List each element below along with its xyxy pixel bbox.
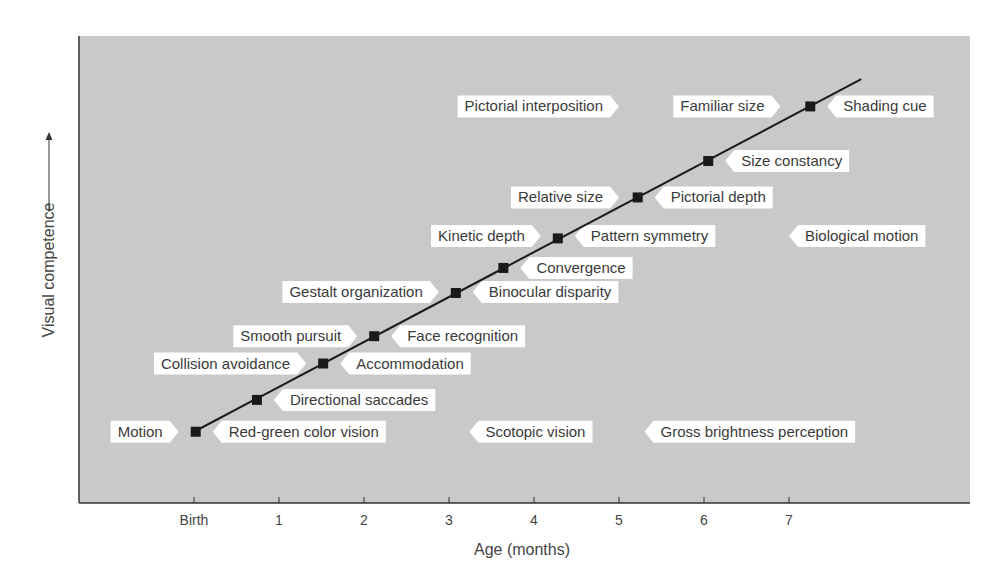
x-tick-label: 5 bbox=[615, 512, 623, 528]
label-text: Smooth pursuit bbox=[240, 327, 342, 344]
x-tick-label: Birth bbox=[180, 512, 209, 528]
annotation-label: Familiar size bbox=[673, 95, 780, 117]
annotation-label: Binocular disparity bbox=[473, 281, 619, 303]
annotation-label: Motion bbox=[111, 421, 179, 443]
arrow-up-icon bbox=[46, 132, 53, 140]
data-point-marker bbox=[369, 331, 379, 341]
x-tick-label: 7 bbox=[785, 512, 793, 528]
annotation-label: Collision avoidance bbox=[154, 353, 306, 375]
label-text: Motion bbox=[118, 423, 163, 440]
annotation-label: Red-green color vision bbox=[213, 421, 386, 443]
annotation-label: Scotopic vision bbox=[469, 421, 592, 443]
data-point-marker bbox=[703, 156, 713, 166]
annotation-label: Biological motion bbox=[789, 225, 925, 247]
data-point-marker bbox=[318, 359, 328, 369]
data-point-marker bbox=[805, 101, 815, 111]
annotation-label: Size constancy bbox=[725, 150, 849, 172]
label-text: Gestalt organization bbox=[289, 283, 422, 300]
label-text: Collision avoidance bbox=[161, 355, 290, 372]
label-text: Pattern symmetry bbox=[591, 227, 709, 244]
data-point-marker bbox=[553, 233, 563, 243]
label-text: Relative size bbox=[518, 188, 603, 205]
label-text: Binocular disparity bbox=[489, 283, 612, 300]
label-text: Face recognition bbox=[407, 327, 518, 344]
annotation-label: Convergence bbox=[520, 257, 632, 279]
label-text: Convergence bbox=[536, 259, 625, 276]
x-tick-label: 3 bbox=[445, 512, 453, 528]
annotation-label: Kinetic depth bbox=[431, 225, 541, 247]
label-text: Pictorial depth bbox=[671, 188, 766, 205]
x-tick-label: 1 bbox=[275, 512, 283, 528]
label-text: Accommodation bbox=[356, 355, 464, 372]
annotation-label: Gestalt organization bbox=[282, 281, 438, 303]
label-text: Directional saccades bbox=[290, 391, 428, 408]
x-tick-label: 6 bbox=[700, 512, 708, 528]
annotation-label: Gross brightness perception bbox=[645, 421, 856, 443]
label-text: Red-green color vision bbox=[229, 423, 379, 440]
annotation-label: Shading cue bbox=[827, 95, 933, 117]
annotation-label: Accommodation bbox=[340, 353, 471, 375]
label-text: Shading cue bbox=[843, 97, 926, 114]
y-axis-title: Visual competence bbox=[40, 202, 57, 337]
label-text: Scotopic vision bbox=[485, 423, 585, 440]
chart: Pictorial interpositionFamiliar sizeShad… bbox=[0, 0, 998, 582]
y-axis-title-group: Visual competence bbox=[40, 132, 57, 337]
label-text: Pictorial interposition bbox=[465, 97, 603, 114]
data-point-marker bbox=[498, 263, 508, 273]
label-text: Biological motion bbox=[805, 227, 918, 244]
data-point-marker bbox=[252, 395, 262, 405]
label-text: Gross brightness perception bbox=[661, 423, 849, 440]
annotation-label: Pictorial depth bbox=[655, 186, 773, 208]
x-tick-label: 4 bbox=[530, 512, 538, 528]
label-text: Kinetic depth bbox=[438, 227, 525, 244]
label-text: Familiar size bbox=[680, 97, 764, 114]
x-axis-title: Age (months) bbox=[474, 541, 570, 558]
data-point-marker bbox=[191, 427, 201, 437]
data-point-marker bbox=[633, 192, 643, 202]
annotation-label: Smooth pursuit bbox=[233, 325, 357, 347]
x-tick-label: 2 bbox=[360, 512, 368, 528]
annotation-label: Pictorial interposition bbox=[458, 95, 619, 117]
annotation-label: Directional saccades bbox=[274, 389, 435, 411]
annotation-label: Face recognition bbox=[391, 325, 525, 347]
label-text: Size constancy bbox=[741, 152, 842, 169]
data-point-marker bbox=[451, 288, 461, 298]
annotation-label: Pattern symmetry bbox=[575, 225, 716, 247]
annotation-label: Relative size bbox=[511, 186, 619, 208]
